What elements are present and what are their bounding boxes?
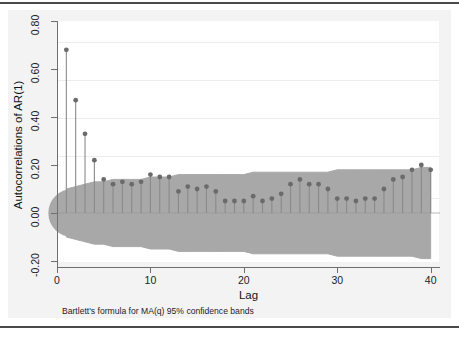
- x-axis-title: Lag: [57, 289, 440, 301]
- page-rule-top: [0, 2, 459, 4]
- faint-gridline: [57, 118, 439, 119]
- y-tick: [51, 69, 57, 70]
- y-tick-label: 0.40: [22, 111, 48, 123]
- y-tick: [51, 261, 57, 262]
- x-tick-label: 20: [224, 274, 264, 286]
- x-tick: [150, 268, 151, 273]
- x-tick: [337, 268, 338, 273]
- y-tick: [51, 117, 57, 118]
- y-axis-title-text: Autocorrelations of AR(1): [12, 81, 24, 209]
- y-tick-label: 0.80: [22, 15, 48, 27]
- x-tick: [244, 268, 245, 273]
- y-tick: [51, 21, 57, 22]
- x-tick-label: 10: [130, 274, 170, 286]
- y-tick-label: -0.20: [22, 255, 48, 267]
- y-tick: [51, 165, 57, 166]
- y-axis-title: Autocorrelations of AR(1): [11, 60, 25, 230]
- y-tick-label: 0.60: [22, 63, 48, 75]
- page-rule-bottom: [0, 326, 459, 328]
- x-tick: [431, 268, 432, 273]
- x-tick: [57, 268, 58, 273]
- y-tick-label: 0.20: [22, 159, 48, 171]
- y-tick-label: 0.00: [22, 207, 48, 219]
- faint-gridline: [57, 42, 439, 43]
- x-axis-line: [57, 267, 440, 268]
- faint-gridline: [57, 198, 439, 199]
- x-tick-label: 0: [37, 274, 77, 286]
- faint-gridline: [57, 80, 439, 81]
- faint-gridline: [57, 156, 439, 157]
- y-axis-line: [57, 21, 58, 267]
- plot-region: [57, 21, 439, 262]
- x-tick-label: 40: [411, 274, 451, 286]
- x-tick-label: 30: [317, 274, 357, 286]
- y-tick: [51, 213, 57, 214]
- scanned-page: -0.200.000.200.400.600.80 010203040 Auto…: [0, 0, 459, 343]
- chart-note: Bartlett's formula for MA(q) 95% confide…: [62, 306, 254, 316]
